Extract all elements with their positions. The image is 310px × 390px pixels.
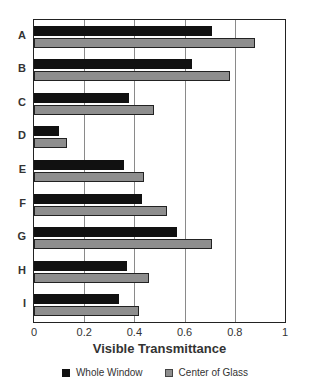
category-label: C <box>0 96 26 108</box>
bar-whole-window-g <box>34 227 177 237</box>
bar-whole-window-c <box>34 93 129 103</box>
bar-whole-window-i <box>34 294 119 304</box>
legend-swatch-icon <box>165 369 173 377</box>
x-tick-label: 0.2 <box>77 326 92 338</box>
category-label: G <box>0 230 26 242</box>
bar-center-of-glass-g <box>34 239 212 249</box>
bar-center-of-glass-i <box>34 306 139 316</box>
bar-center-of-glass-b <box>34 71 230 81</box>
category-label: H <box>0 264 26 276</box>
gridline <box>235 20 236 322</box>
x-tick-label: 0.8 <box>227 326 242 338</box>
bar-whole-window-d <box>34 126 59 136</box>
x-axis-label: Visible Transmittance <box>33 341 286 356</box>
legend-item: Whole Window <box>62 367 143 378</box>
bar-whole-window-a <box>34 26 212 36</box>
legend-label: Center of Glass <box>179 367 248 378</box>
plot-area <box>33 19 286 323</box>
legend-item: Center of Glass <box>165 367 248 378</box>
bar-center-of-glass-f <box>34 206 167 216</box>
x-tick-label: 0 <box>31 326 37 338</box>
x-tick-label: 1 <box>282 326 288 338</box>
bar-center-of-glass-a <box>34 38 255 48</box>
bar-whole-window-b <box>34 59 192 69</box>
category-label: F <box>0 197 26 209</box>
bar-center-of-glass-d <box>34 138 67 148</box>
bar-center-of-glass-h <box>34 273 149 283</box>
legend-label: Whole Window <box>76 367 143 378</box>
category-label: A <box>0 29 26 41</box>
category-label: D <box>0 129 26 141</box>
legend-swatch-icon <box>62 369 70 377</box>
bar-whole-window-h <box>34 261 127 271</box>
bar-center-of-glass-c <box>34 105 154 115</box>
x-tick-label: 0.4 <box>127 326 142 338</box>
legend: Whole WindowCenter of Glass <box>0 367 310 378</box>
bar-center-of-glass-e <box>34 172 144 182</box>
bar-whole-window-f <box>34 194 142 204</box>
category-label: B <box>0 62 26 74</box>
x-tick-label: 0.6 <box>177 326 192 338</box>
bar-whole-window-e <box>34 160 124 170</box>
category-label: I <box>0 297 26 309</box>
category-label: E <box>0 163 26 175</box>
